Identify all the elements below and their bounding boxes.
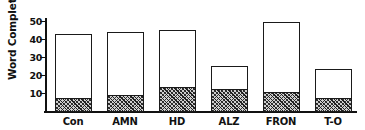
y-tick-label: 40 (29, 33, 42, 44)
y-axis-line (45, 18, 47, 113)
x-label-amn: AMN (99, 116, 151, 127)
x-label-alz: ALZ (203, 116, 255, 127)
y-tick-label: 10 (29, 87, 42, 98)
x-label-hd: HD (151, 116, 203, 127)
x-label-con: Con (47, 116, 99, 127)
bar-hatched-segment (264, 92, 299, 111)
y-tick-label: 50 (29, 15, 42, 26)
bar-amn (107, 32, 144, 112)
word-completion-bar-chart: Word Completion (%) 1020304050 ConAMNHDA… (0, 0, 365, 130)
bar-alz (211, 66, 248, 112)
bar-hatched-segment (316, 98, 351, 111)
bar-hd (159, 30, 196, 112)
bar-hatched-segment (212, 89, 247, 111)
x-label-t-o: T-O (307, 116, 359, 127)
y-tick-label: 30 (29, 51, 42, 62)
y-axis-title: Word Completion (%) (6, 0, 18, 80)
plot-area: 1020304050 ConAMNHDALZFRONT-O (45, 12, 357, 113)
bar-hatched-segment (56, 98, 91, 111)
bar-fron (263, 22, 300, 112)
y-tick-label: 20 (29, 69, 42, 80)
bar-con (55, 34, 92, 112)
x-label-fron: FRON (255, 116, 307, 127)
bar-t-o (315, 69, 352, 112)
bar-hatched-segment (160, 87, 195, 111)
bar-hatched-segment (108, 95, 143, 111)
